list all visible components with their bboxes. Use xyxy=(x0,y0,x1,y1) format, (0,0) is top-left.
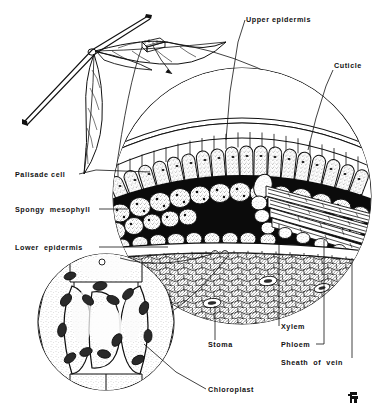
label-cuticle: Cuticle xyxy=(334,61,362,70)
label-upper-epidermis: Upper epidermis xyxy=(246,15,311,24)
leaf-anatomy-figure: Upper epidermis Cuticle Palisade cell Sp… xyxy=(0,0,379,416)
label-sheath-of-vein: Sheath of vein xyxy=(281,358,343,367)
leaf-anatomy-svg: Upper epidermis Cuticle Palisade cell Sp… xyxy=(0,0,379,416)
label-xylem: Xylem xyxy=(281,322,305,331)
label-chloroplast: Chloroplast xyxy=(208,385,254,394)
sampled-leaf-block xyxy=(142,38,165,52)
label-spongy-mesophyll: Spongy mesophyll xyxy=(15,205,90,214)
label-stoma: Stoma xyxy=(208,340,233,349)
label-palisade-cell: Palisade cell xyxy=(15,170,65,179)
guard-cell-inset-circle xyxy=(38,253,174,393)
label-phloem: Phloem xyxy=(281,340,310,349)
artist-monogram xyxy=(348,392,358,403)
label-lower-epidermis: Lower epidermis xyxy=(15,243,83,252)
